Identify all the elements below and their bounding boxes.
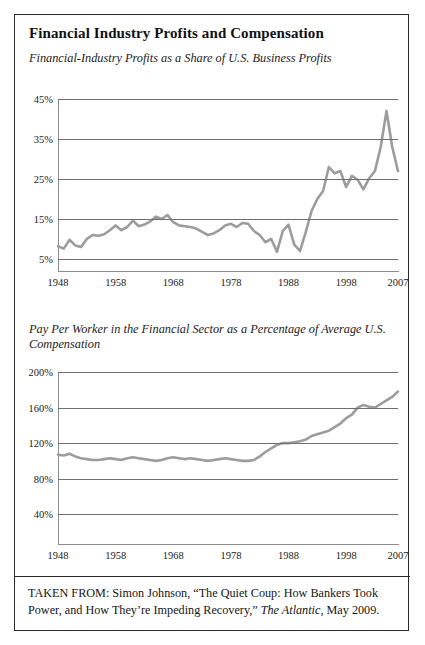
chart-1-subtitle: Financial-Industry Profits as a Share of… <box>29 51 332 66</box>
chart-2-panel: 200%160%120%80%40% 194819581968197819881… <box>15 360 410 575</box>
source-note: TAKEN FROM: Simon Johnson, “The Quiet Co… <box>28 585 400 619</box>
x-tick-label: 1978 <box>220 277 241 288</box>
gridline <box>58 408 398 409</box>
gridline <box>58 219 398 220</box>
page-title: Financial Industry Profits and Compensat… <box>29 25 324 42</box>
y-tick-label: 200% <box>29 367 54 378</box>
y-tick-label: 40% <box>34 509 53 520</box>
gridline <box>58 179 398 180</box>
chart-1-plot-area <box>58 99 398 259</box>
x-tick-label: 1988 <box>278 550 299 561</box>
gridline <box>58 99 398 100</box>
x-tick-label: 1988 <box>278 277 299 288</box>
chart-1-panel: 45%35%25%15%5% 1948195819681978198819982… <box>15 87 410 302</box>
gridline <box>58 259 398 260</box>
x-tick-label: 2007 <box>388 550 409 561</box>
chart-1-series-line <box>58 111 398 252</box>
y-tick-label: 35% <box>34 134 53 145</box>
x-tick-label: 1958 <box>105 550 126 561</box>
chart-2-series-line <box>58 392 398 461</box>
gridline <box>58 139 398 140</box>
gridline <box>58 514 398 515</box>
x-tick-label: 1968 <box>163 550 184 561</box>
x-tick-label: 2007 <box>388 277 409 288</box>
gridline <box>58 372 398 373</box>
figure-container: Financial Industry Profits and Compensat… <box>14 14 409 631</box>
chart-2-plot-area <box>58 372 398 532</box>
y-tick-label: 80% <box>34 473 53 484</box>
gridline <box>58 479 398 480</box>
x-tick-label: 1998 <box>336 550 357 561</box>
y-tick-label: 5% <box>39 254 53 265</box>
x-tick-label: 1998 <box>336 277 357 288</box>
y-tick-label: 120% <box>29 438 54 449</box>
y-tick-label: 25% <box>34 174 53 185</box>
figure-inner: Financial Industry Profits and Compensat… <box>15 15 408 630</box>
y-tick-label: 45% <box>34 94 53 105</box>
chart-2-x-axis <box>58 544 399 545</box>
source-note-publication: The Atlantic <box>261 603 321 617</box>
x-tick-label: 1948 <box>48 277 69 288</box>
x-tick-label: 1968 <box>163 277 184 288</box>
chart-1-x-axis <box>58 271 399 272</box>
x-tick-label: 1948 <box>48 550 69 561</box>
source-note-suffix: , May 2009. <box>320 603 379 617</box>
x-tick-label: 1978 <box>220 550 241 561</box>
y-tick-label: 160% <box>29 402 54 413</box>
source-divider <box>15 576 410 577</box>
x-tick-label: 1958 <box>105 277 126 288</box>
chart-2-subtitle: Pay Per Worker in the Financial Sector a… <box>29 322 408 352</box>
chart-2-series-svg <box>58 372 398 532</box>
gridline <box>58 443 398 444</box>
y-tick-label: 15% <box>34 214 53 225</box>
